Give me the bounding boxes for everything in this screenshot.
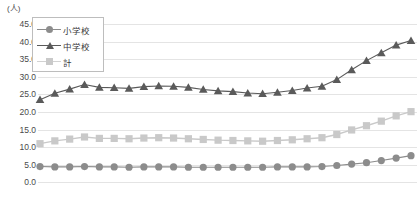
data-point [244, 164, 251, 171]
data-point [393, 112, 400, 119]
chart-container: (人) 45.0 40.0 35.0 30.0 25.0 20.0 15.0 1… [0, 0, 417, 208]
data-point [155, 134, 162, 141]
data-point [111, 163, 118, 170]
legend-item-juniorhigh[interactable]: 中学校 [37, 38, 100, 54]
data-point [244, 137, 251, 144]
data-point [96, 163, 103, 170]
y-tick-label: 45.0 [2, 19, 36, 29]
data-point [274, 163, 281, 170]
data-point [304, 135, 311, 142]
y-tick-label: 5.0 [2, 160, 36, 170]
data-point [200, 164, 207, 171]
series-line [40, 112, 411, 144]
data-point [185, 164, 192, 171]
data-point [81, 133, 88, 140]
data-point [348, 126, 355, 133]
data-point [111, 135, 118, 142]
data-point [333, 131, 340, 138]
data-point [318, 82, 327, 90]
data-point [378, 157, 385, 164]
data-point [36, 96, 45, 104]
legend-item-total[interactable]: 計 [37, 54, 100, 70]
data-point [170, 134, 177, 141]
data-point [318, 163, 325, 170]
legend-item-elementary[interactable]: 小学校 [37, 22, 100, 38]
data-point [274, 137, 281, 144]
data-point [229, 164, 236, 171]
data-point [347, 66, 356, 74]
data-point [289, 136, 296, 143]
data-point [333, 162, 340, 169]
series-line [40, 156, 411, 168]
y-tick-label: 15.0 [2, 125, 36, 135]
data-point [185, 135, 192, 142]
data-point [170, 163, 177, 170]
data-point [214, 137, 221, 144]
data-point [348, 160, 355, 167]
y-tick-label: 0.0 [2, 177, 36, 187]
data-point [51, 137, 58, 144]
y-tick-label: 20.0 [2, 107, 36, 117]
data-point [377, 49, 386, 57]
data-point [229, 137, 236, 144]
y-tick-label: 25.0 [2, 89, 36, 99]
data-point [66, 163, 73, 170]
y-tick-label: 10.0 [2, 142, 36, 152]
y-tick-label: 30.0 [2, 72, 36, 82]
data-point [259, 138, 266, 145]
data-point [407, 152, 414, 159]
data-point [318, 134, 325, 141]
data-point [140, 163, 147, 170]
data-point [66, 136, 73, 143]
data-point [363, 122, 370, 129]
data-point [51, 163, 58, 170]
data-point [125, 135, 132, 142]
data-point [36, 163, 43, 170]
data-point [407, 108, 414, 115]
data-point [214, 164, 221, 171]
data-point [80, 80, 89, 88]
data-point [304, 163, 311, 170]
data-point [125, 164, 132, 171]
data-point [362, 57, 371, 65]
data-point [333, 76, 342, 84]
series-circle [36, 152, 414, 171]
data-point [392, 41, 401, 49]
legend-label: 中学校 [63, 40, 90, 52]
legend-label: 小学校 [63, 24, 90, 36]
data-point [81, 163, 88, 170]
data-point [378, 118, 385, 125]
data-point [363, 159, 370, 166]
circle-marker-icon [37, 24, 61, 36]
y-tick-label: 35.0 [2, 54, 36, 64]
legend-label: 計 [63, 56, 72, 68]
data-point [96, 135, 103, 142]
data-point [65, 85, 74, 93]
data-point [289, 163, 296, 170]
square-marker-icon [37, 56, 61, 68]
data-point [259, 164, 266, 171]
data-point [155, 163, 162, 170]
data-point [200, 136, 207, 143]
data-point [36, 140, 43, 147]
y-tick-label: 40.0 [2, 37, 36, 47]
data-point [407, 36, 416, 44]
y-axis-tick-labels: 45.0 40.0 35.0 30.0 25.0 20.0 15.0 10.0 … [0, 0, 36, 208]
series-square [36, 108, 414, 147]
data-point [393, 155, 400, 162]
data-point [140, 134, 147, 141]
triangle-marker-icon [37, 40, 61, 52]
chart-legend: 小学校 中学校 計 [32, 17, 104, 72]
